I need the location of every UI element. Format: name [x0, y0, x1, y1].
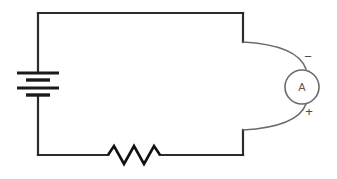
ammeter-symbol: A − +	[285, 49, 319, 119]
circuit-schematic-canvas: A − +	[0, 0, 337, 179]
battery-symbol	[17, 73, 59, 95]
resistor-symbol	[108, 146, 160, 164]
resistor-zigzag	[108, 146, 160, 164]
ammeter-positive-terminal-label: +	[305, 104, 313, 119]
circuit-diagram: A − +	[0, 0, 337, 179]
ammeter-label: A	[298, 81, 306, 93]
wiring-group	[38, 13, 243, 155]
ammeter-negative-terminal-label: −	[304, 49, 312, 64]
ammeter-lead-positive	[243, 104, 306, 130]
ammeter-lead-negative	[243, 42, 306, 69]
